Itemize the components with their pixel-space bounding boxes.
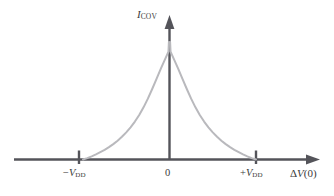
x-axis-title-variable: V [297, 167, 304, 179]
tick-label-neg-subscript: DD [75, 171, 86, 179]
curve-left-branch [83, 42, 169, 160]
tick-label-neg-vdd: −VDD [63, 168, 86, 179]
x-axis-title: ΔV(0) [290, 168, 317, 179]
y-axis-arrowhead [165, 15, 175, 29]
x-axis-arrowhead [306, 155, 320, 165]
curve-right-branch [170, 42, 256, 160]
x-axis-title-argument: (0) [304, 167, 317, 179]
y-axis-label: ICOV [137, 9, 157, 21]
tick-label-pos-vdd: +VDD [240, 168, 263, 179]
tick-label-pos-subscript: DD [252, 171, 263, 179]
tick-label-zero: 0 [165, 168, 170, 179]
figure-container: ICOV ΔV(0) −VDD 0 +VDD [0, 0, 334, 196]
y-axis-label-subscript: COV [141, 12, 157, 21]
